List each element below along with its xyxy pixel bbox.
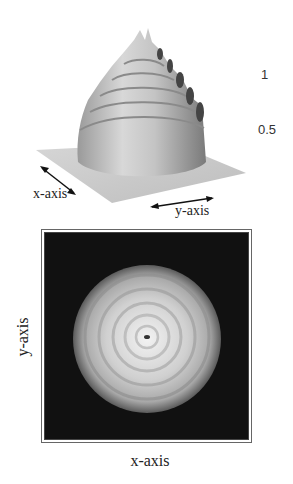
center-dot (144, 335, 150, 339)
intensity-image (44, 232, 249, 440)
y-axis-label-3d: y-axis (175, 203, 209, 219)
surface-plot: 1 0.5 x-axis y-axis (0, 0, 293, 230)
ring-pattern (45, 233, 249, 440)
ring-notch (157, 48, 163, 60)
ring-notch (176, 72, 184, 88)
arrowhead-icon (206, 196, 214, 202)
x-axis-label-image: x-axis (110, 452, 190, 470)
ring-notch (196, 102, 204, 122)
z-tick-0-5: 0.5 (258, 122, 276, 137)
y-axis-label-image: y-axis (8, 316, 38, 358)
arrowhead-icon (150, 203, 159, 209)
intensity-image-frame (41, 229, 252, 443)
ring-notch (167, 59, 173, 73)
z-tick-1: 1 (261, 67, 268, 82)
x-axis-label-3d: x-axis (33, 186, 67, 202)
ring-notch (186, 87, 194, 105)
